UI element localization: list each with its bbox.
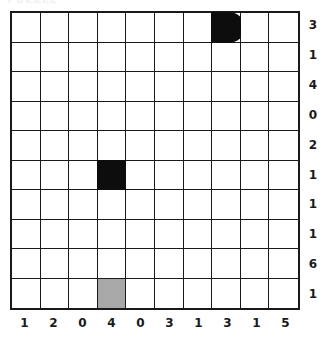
grid-cell-r9-c7[interactable]: [184, 249, 213, 279]
grid-cell-r1-c10[interactable]: [269, 13, 298, 43]
grid-cell-r4-c6[interactable]: [155, 102, 184, 132]
grid-cell-r5-c7[interactable]: [184, 131, 213, 161]
grid-cell-r7-c4[interactable]: [98, 190, 127, 220]
grid-cell-r1-c6[interactable]: [155, 13, 184, 43]
grid-cell-r9-c6[interactable]: [155, 249, 184, 279]
grid-cell-r6-c9[interactable]: [241, 161, 270, 191]
grid-cell-r4-c7[interactable]: [184, 102, 213, 132]
grid-cell-r10-c10[interactable]: [269, 279, 298, 309]
grid-cell-r6-c10[interactable]: [269, 161, 298, 191]
grid-cell-r5-c6[interactable]: [155, 131, 184, 161]
grid-cell-r4-c1[interactable]: [12, 102, 41, 132]
grid-cell-r7-c3[interactable]: [69, 190, 98, 220]
grid-cell-r8-c6[interactable]: [155, 220, 184, 250]
grid-cell-r6-c5[interactable]: [126, 161, 155, 191]
grid-cell-r7-c9[interactable]: [241, 190, 270, 220]
grid-cell-r9-c3[interactable]: [69, 249, 98, 279]
grid-cell-r2-c9[interactable]: [241, 43, 270, 73]
grid-cell-r8-c1[interactable]: [12, 220, 41, 250]
grid-cell-r10-c7[interactable]: [184, 279, 213, 309]
grid-cell-r3-c5[interactable]: [126, 72, 155, 102]
grid-cell-r3-c10[interactable]: [269, 72, 298, 102]
grid-cell-r10-c3[interactable]: [69, 279, 98, 309]
grid-cell-r4-c5[interactable]: [126, 102, 155, 132]
grid-cell-r3-c3[interactable]: [69, 72, 98, 102]
grid-cell-r1-c1[interactable]: [12, 13, 41, 43]
grid-cell-r9-c1[interactable]: [12, 249, 41, 279]
grid-cell-r5-c5[interactable]: [126, 131, 155, 161]
grid-cell-r1-c9[interactable]: [241, 13, 270, 43]
grid-cell-r2-c4[interactable]: [98, 43, 127, 73]
grid-cell-r10-c9[interactable]: [241, 279, 270, 309]
grid-cell-r2-c8[interactable]: [212, 43, 241, 73]
grid-cell-r4-c9[interactable]: [241, 102, 270, 132]
grid-cell-r1-c2[interactable]: [41, 13, 70, 43]
grid-cell-r3-c2[interactable]: [41, 72, 70, 102]
grid-cell-r7-c6[interactable]: [155, 190, 184, 220]
grid-cell-r4-c8[interactable]: [212, 102, 241, 132]
grid-cell-r1-c4[interactable]: [98, 13, 127, 43]
grid-cell-r3-c1[interactable]: [12, 72, 41, 102]
grid-cell-r10-c1[interactable]: [12, 279, 41, 309]
grid-cell-r4-c3[interactable]: [69, 102, 98, 132]
grid-cell-r6-c8[interactable]: [212, 161, 241, 191]
grid-cell-r9-c8[interactable]: [212, 249, 241, 279]
grid-cell-r9-c10[interactable]: [269, 249, 298, 279]
grid-cell-r6-c3[interactable]: [69, 161, 98, 191]
grid-cell-r10-c2[interactable]: [41, 279, 70, 309]
grid-cell-r6-c4[interactable]: [98, 161, 127, 191]
grid-cell-r8-c5[interactable]: [126, 220, 155, 250]
grid-cell-r10-c8[interactable]: [212, 279, 241, 309]
grid-cell-r1-c7[interactable]: [184, 13, 213, 43]
grid-cell-r6-c2[interactable]: [41, 161, 70, 191]
grid-cell-r2-c10[interactable]: [269, 43, 298, 73]
grid-cell-r3-c7[interactable]: [184, 72, 213, 102]
grid-cell-r2-c7[interactable]: [184, 43, 213, 73]
grid-cell-r7-c7[interactable]: [184, 190, 213, 220]
grid-cell-r7-c1[interactable]: [12, 190, 41, 220]
grid-cell-r1-c8[interactable]: [212, 13, 241, 43]
grid-cell-r3-c4[interactable]: [98, 72, 127, 102]
grid-cell-r5-c9[interactable]: [241, 131, 270, 161]
grid-cell-r9-c5[interactable]: [126, 249, 155, 279]
grid-cell-r7-c2[interactable]: [41, 190, 70, 220]
grid-cell-r5-c4[interactable]: [98, 131, 127, 161]
grid-cell-r8-c2[interactable]: [41, 220, 70, 250]
grid-cell-r8-c9[interactable]: [241, 220, 270, 250]
grid-cell-r2-c6[interactable]: [155, 43, 184, 73]
grid-cell-r9-c9[interactable]: [241, 249, 270, 279]
grid-cell-r5-c3[interactable]: [69, 131, 98, 161]
grid-cell-r4-c2[interactable]: [41, 102, 70, 132]
grid-cell-r4-c4[interactable]: [98, 102, 127, 132]
grid-cell-r5-c10[interactable]: [269, 131, 298, 161]
grid-cell-r8-c8[interactable]: [212, 220, 241, 250]
grid-cell-r5-c8[interactable]: [212, 131, 241, 161]
grid-cell-r7-c8[interactable]: [212, 190, 241, 220]
grid-cell-r9-c2[interactable]: [41, 249, 70, 279]
grid-cell-r8-c3[interactable]: [69, 220, 98, 250]
grid-cell-r2-c1[interactable]: [12, 43, 41, 73]
grid-cell-r2-c5[interactable]: [126, 43, 155, 73]
grid-cell-r3-c8[interactable]: [212, 72, 241, 102]
grid-cell-r2-c2[interactable]: [41, 43, 70, 73]
grid-cell-r7-c10[interactable]: [269, 190, 298, 220]
grid-cell-r7-c5[interactable]: [126, 190, 155, 220]
grid-cell-r5-c2[interactable]: [41, 131, 70, 161]
grid-cell-r6-c7[interactable]: [184, 161, 213, 191]
puzzle-grid[interactable]: [10, 11, 300, 310]
grid-cell-r3-c6[interactable]: [155, 72, 184, 102]
grid-cell-r3-c9[interactable]: [241, 72, 270, 102]
grid-cell-r8-c10[interactable]: [269, 220, 298, 250]
grid-cell-r6-c6[interactable]: [155, 161, 184, 191]
grid-cell-r6-c1[interactable]: [12, 161, 41, 191]
grid-cell-r2-c3[interactable]: [69, 43, 98, 73]
grid-cell-r10-c4[interactable]: [98, 279, 127, 309]
grid-cell-r1-c5[interactable]: [126, 13, 155, 43]
grid-cell-r8-c4[interactable]: [98, 220, 127, 250]
grid-cell-r4-c10[interactable]: [269, 102, 298, 132]
grid-cell-r1-c3[interactable]: [69, 13, 98, 43]
grid-cell-r8-c7[interactable]: [184, 220, 213, 250]
grid-cell-r10-c6[interactable]: [155, 279, 184, 309]
grid-cell-r9-c4[interactable]: [98, 249, 127, 279]
grid-cell-r5-c1[interactable]: [12, 131, 41, 161]
